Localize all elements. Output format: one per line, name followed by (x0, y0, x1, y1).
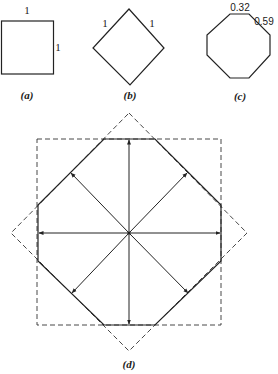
caption-c: (c) (234, 90, 246, 103)
caption-b: (b) (124, 89, 137, 102)
square-right-side-label: 1 (55, 41, 61, 53)
octagon-top-side-label: 0.32 (230, 2, 250, 13)
radial-arrows (39, 140, 220, 324)
arrow-down-left (72, 233, 129, 293)
square-top-side-label: 1 (24, 4, 30, 16)
diamond-upper-left-label: 1 (102, 17, 108, 29)
panel-d: (d) (11, 113, 247, 371)
panel-b: 1 1 (b) (93, 9, 164, 102)
unit-square (2, 21, 54, 74)
caption-d: (d) (123, 358, 136, 371)
arrow-down-right (129, 233, 188, 293)
center-point (127, 231, 130, 234)
arrow-up-right (129, 173, 187, 233)
panel-c: 0.32 0.59 (c) (207, 2, 274, 103)
caption-a: (a) (21, 89, 34, 102)
figure-canvas: 1 1 (a) 1 1 (b) 0.32 0.59 (c) (d) (0, 0, 278, 374)
arrow-up-left (71, 173, 129, 233)
diamond-upper-right-label: 1 (149, 17, 155, 29)
panel-a: 1 1 (a) (2, 4, 61, 102)
octagon-diagonal-side-label: 0.59 (254, 16, 274, 27)
